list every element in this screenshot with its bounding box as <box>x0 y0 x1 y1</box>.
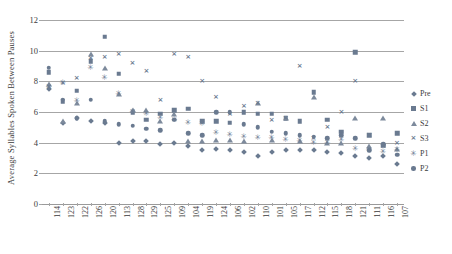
legend-item-s2[interactable]: S2 <box>408 116 452 131</box>
y-axis-tick-labels: 024681012 <box>14 0 38 215</box>
data-point <box>241 149 247 155</box>
data-point: ✳ <box>46 83 53 91</box>
data-point <box>116 140 122 146</box>
x-tickmark <box>49 203 50 206</box>
data-point: ✳ <box>115 90 122 98</box>
data-point <box>283 147 289 153</box>
data-point <box>199 147 205 153</box>
x-tick-label: 109 <box>178 206 187 246</box>
x-tickmark <box>216 203 217 206</box>
data-point: ✳ <box>254 134 261 142</box>
y-tick-label: 12 <box>18 16 38 24</box>
x-tickmark <box>327 203 328 206</box>
y-tick-label: 10 <box>18 47 38 55</box>
data-point <box>353 136 358 141</box>
x-tickmark <box>383 203 384 206</box>
y-tick-label: 8 <box>18 77 38 85</box>
data-point: × <box>255 99 261 106</box>
data-point: ✳ <box>60 79 67 87</box>
data-point <box>214 119 219 124</box>
data-point <box>116 71 121 76</box>
x-tick-label: 110 <box>262 206 271 246</box>
y-tick-label: 4 <box>18 139 38 147</box>
x-tick-label: 124 <box>220 206 229 246</box>
x-tickmark <box>244 203 245 206</box>
data-point <box>214 110 219 115</box>
data-point <box>199 139 205 144</box>
data-point <box>325 117 330 122</box>
y-tickmark <box>39 143 42 144</box>
data-point: ✳ <box>282 136 289 144</box>
data-point <box>352 154 358 160</box>
x-tick-label: 115 <box>331 206 340 246</box>
data-point <box>47 70 52 75</box>
legend-item-p2[interactable]: P2 <box>408 161 452 176</box>
data-point: × <box>297 63 303 70</box>
data-point: ✳ <box>129 108 136 116</box>
x-tickmark <box>63 203 64 206</box>
x-tick-label: 121 <box>359 206 368 246</box>
gridline <box>42 20 404 21</box>
data-point: × <box>171 50 177 57</box>
data-point <box>60 119 66 124</box>
data-point: ✳ <box>185 119 192 127</box>
data-point <box>102 119 107 124</box>
data-point <box>200 133 205 138</box>
data-point <box>297 119 302 124</box>
data-point: × <box>74 75 80 82</box>
data-point <box>255 154 261 160</box>
data-point: ✳ <box>352 145 359 153</box>
x-tickmark <box>286 203 287 206</box>
data-point: × <box>366 132 372 139</box>
x-marker-icon: × <box>408 135 419 142</box>
data-point: × <box>88 55 94 62</box>
x-tick-label: 112 <box>318 206 327 246</box>
data-point <box>88 118 94 124</box>
data-point <box>395 153 400 158</box>
data-point <box>227 147 233 153</box>
x-tick-label: 102 <box>248 206 257 246</box>
x-tickmark <box>300 203 301 206</box>
data-point <box>144 127 149 132</box>
data-point <box>395 131 400 136</box>
data-point <box>325 136 330 141</box>
legend-item-p1[interactable]: ✳P1 <box>408 146 452 161</box>
plot-area: ××××××××××××××××××××××××××✳✳✳✳✳✳✳✳✳✳✳✳✳✳… <box>42 20 404 204</box>
x-tick-label: 122 <box>81 206 90 246</box>
y-tickmark <box>39 112 42 113</box>
x-tickmark <box>91 203 92 206</box>
data-point <box>283 131 288 136</box>
data-point <box>102 35 107 40</box>
data-point: × <box>269 116 275 123</box>
x-axis-tick-labels: 1141231221261201131281291251091041191241… <box>42 206 404 254</box>
legend-item-pre[interactable]: Pre <box>408 86 452 101</box>
data-point: × <box>338 109 344 116</box>
data-point <box>171 140 177 146</box>
y-tickmark <box>39 204 42 205</box>
data-point <box>185 139 191 144</box>
y-tick-label: 6 <box>18 108 38 116</box>
data-point <box>102 65 108 70</box>
legend-label: Pre <box>419 89 431 98</box>
gridline <box>42 204 404 205</box>
data-point: × <box>324 124 330 131</box>
x-tick-label: 117 <box>304 206 313 246</box>
legend-item-s3[interactable]: ×S3 <box>408 131 452 146</box>
data-point <box>311 134 316 139</box>
x-tick-label: 107 <box>401 206 410 246</box>
x-tick-label: 126 <box>95 206 104 246</box>
x-tickmark <box>133 203 134 206</box>
x-tick-label: 119 <box>206 206 215 246</box>
x-tickmark <box>188 203 189 206</box>
data-point: ✳ <box>213 129 220 137</box>
x-tick-label: 125 <box>164 206 173 246</box>
data-point <box>185 143 191 149</box>
data-point <box>256 111 261 116</box>
data-point: ✳ <box>268 134 275 142</box>
data-point <box>353 50 358 55</box>
data-point: ✳ <box>87 64 94 72</box>
data-point <box>75 116 80 121</box>
x-tick-label: 114 <box>53 206 62 246</box>
data-point <box>186 131 191 136</box>
legend-item-s1[interactable]: S1 <box>408 101 452 116</box>
